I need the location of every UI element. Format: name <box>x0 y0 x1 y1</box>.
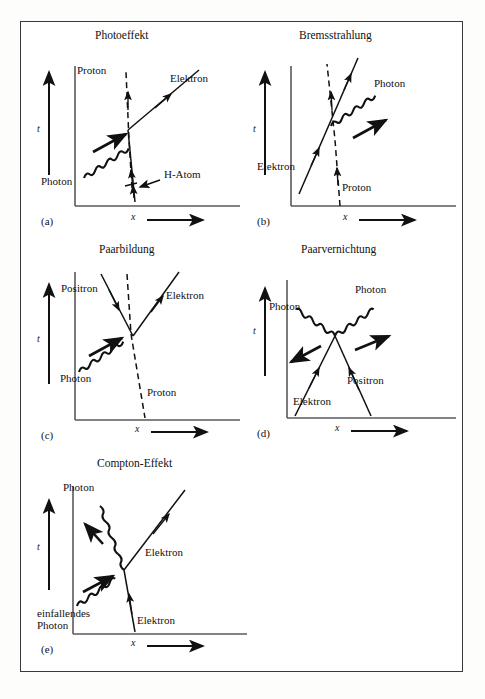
photon-right-worldline <box>332 308 377 336</box>
proton-direction-arrow-lower <box>337 168 338 185</box>
panel-a-label-h-atom: H-Atom <box>164 169 201 180</box>
scattered-photon-arrow <box>85 524 103 544</box>
photon-right-direction-arrow <box>355 336 389 350</box>
panel-a-id: (a) <box>41 216 53 227</box>
panel-b-label-proton: Proton <box>342 182 371 193</box>
panel-e-title: Compton-Effekt <box>97 458 172 470</box>
panel-a-title: Photoeffekt <box>95 30 148 42</box>
panel-a-label-photon: Photon <box>41 176 72 187</box>
proton-direction-arrow-upper <box>331 92 332 110</box>
photon-direction-arrow <box>93 134 126 152</box>
panel-e-id: (e) <box>41 644 53 655</box>
positron-direction-arrow <box>109 290 119 310</box>
incoming-photon-worldline <box>74 578 119 606</box>
panel-c-label-elektron: Elektron <box>166 290 204 301</box>
panel-b-axis-t-label: t <box>253 124 256 134</box>
panel-d-label-elektron: Elektron <box>293 396 331 407</box>
panel-c-graphic <box>27 244 242 449</box>
panel-a-axis-x-label: x <box>131 212 135 222</box>
panel-b-title: Bremsstrahlung <box>299 30 372 42</box>
panel-d-title: Paarvernichtung <box>301 244 376 256</box>
panel-d-label-photon-right: Photon <box>355 284 386 295</box>
panel-b-label-photon: Photon <box>374 78 405 89</box>
panel-c-label-photon: Photon <box>60 373 91 384</box>
scattered-electron-arrow <box>153 514 169 534</box>
panel-e-axis-t-label: t <box>37 542 40 552</box>
bound-electron-arrow-2 <box>133 186 134 198</box>
electron-direction-arrow <box>151 296 163 312</box>
electron-direction-arrow-lower <box>311 148 319 166</box>
photon-left-direction-arrow <box>291 346 321 362</box>
panel-b-id: (b) <box>257 216 270 227</box>
panel-d-id: (d) <box>257 428 270 439</box>
page-background: Photoeffekt t x Proton Elektron Photon H… <box>0 0 485 699</box>
panel-photoeffekt: Photoeffekt t x Proton Elektron Photon H… <box>27 30 242 235</box>
scattered-electron-worldline <box>124 490 185 570</box>
panel-bremsstrahlung: Bremsstrahlung t x Photon Elektron Proto… <box>243 30 458 235</box>
panel-e-label-incoming-photon: einfallendes Photon <box>37 607 90 632</box>
panel-a-label-proton: Proton <box>77 65 106 76</box>
electron-direction-arrow-upper <box>344 74 351 90</box>
panel-c-label-positron: Positron <box>61 283 98 294</box>
panel-c-label-proton: Proton <box>147 387 176 398</box>
panel-b-label-elektron: Elektron <box>257 161 295 172</box>
panel-c-title: Paarbildung <box>99 244 155 256</box>
panel-d-axis-x-label: x <box>335 423 339 433</box>
electron-worldline <box>133 272 179 336</box>
photon-direction-arrow <box>353 120 386 138</box>
panel-d-graphic <box>243 244 458 449</box>
panel-d-label-photon-left: Photon <box>269 301 300 312</box>
electron-direction-arrow <box>155 94 171 108</box>
panel-b-axis-x-label: x <box>343 212 347 222</box>
panel-a-label-elektron: Elektron <box>170 73 208 84</box>
panel-a-axis-t-label: t <box>37 124 40 134</box>
electron-direction-arrow <box>309 368 319 388</box>
panel-e-label-elektron-in: Elektron <box>137 615 175 626</box>
panel-b-graphic <box>243 30 458 235</box>
panel-c-axis-x-label: x <box>135 424 139 434</box>
panel-e-label-elektron-out: Elektron <box>145 547 183 558</box>
panel-compton-effekt: Compton-Effekt t x Photon Elektron einfa… <box>27 458 252 666</box>
panel-e-graphic <box>27 458 252 666</box>
panel-paarbildung: Paarbildung t x Positron Elektron Photon… <box>27 244 242 449</box>
figure-frame: Photoeffekt t x Proton Elektron Photon H… <box>20 21 463 672</box>
panel-c-id: (c) <box>41 430 53 441</box>
proton-worldline <box>127 274 145 418</box>
panel-paarvernichtung: Paarvernichtung t x Photon Photon Elektr… <box>243 244 458 449</box>
h-atom-leader-arrow <box>140 180 160 187</box>
panel-a-graphic <box>27 30 242 235</box>
photon-left-worldline <box>293 308 338 336</box>
panel-d-axis-t-label: t <box>253 326 256 336</box>
panel-c-axis-t-label: t <box>37 334 40 344</box>
panel-e-axis-x-label: x <box>131 638 135 648</box>
panel-e-label-photon: Photon <box>63 482 94 493</box>
panel-d-label-positron: Positron <box>347 375 384 386</box>
photon-worldline <box>81 148 132 178</box>
photon-worldline <box>76 342 127 372</box>
scattered-photon-worldline <box>100 506 124 570</box>
